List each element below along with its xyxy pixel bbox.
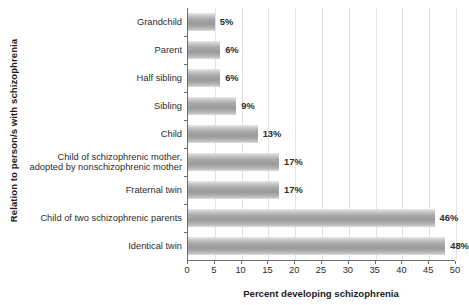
x-axis-tick bbox=[241, 261, 242, 264]
x-axis-tick-label: 20 bbox=[289, 265, 299, 275]
x-axis-tick bbox=[214, 261, 215, 264]
bar bbox=[188, 125, 258, 143]
x-axis-tick bbox=[267, 261, 268, 264]
y-axis-tick bbox=[184, 148, 188, 149]
category-label: Half sibling bbox=[26, 64, 182, 92]
category-label-line: Child of schizophrenic mother, bbox=[57, 152, 182, 162]
x-axis-tick-label: 40 bbox=[396, 265, 406, 275]
x-axis-tick bbox=[187, 261, 188, 264]
category-label: Child of two schizophrenic parents bbox=[26, 204, 182, 232]
y-axis-tick bbox=[184, 120, 188, 121]
bar-value-label: 6% bbox=[225, 69, 238, 87]
bar bbox=[188, 97, 236, 115]
x-axis-tick bbox=[428, 261, 429, 264]
category-label-line: Grandchild bbox=[137, 17, 182, 27]
y-axis-tick bbox=[184, 176, 188, 177]
category-label-line: Fraternal twin bbox=[126, 185, 182, 195]
bar bbox=[188, 69, 220, 87]
x-axis-tick bbox=[375, 261, 376, 264]
bar-value-label: 13% bbox=[263, 125, 282, 143]
y-axis-tick bbox=[184, 92, 188, 93]
category-label: Sibling bbox=[26, 92, 182, 120]
y-axis-tick bbox=[184, 36, 188, 37]
x-axis-tick-label: 25 bbox=[316, 265, 326, 275]
y-axis-title-text: Relation to person/s with schizophrenia bbox=[9, 38, 20, 221]
category-label-line: Child bbox=[161, 129, 182, 139]
x-axis-tick-label: 35 bbox=[369, 265, 379, 275]
x-axis-tick-label: 5 bbox=[211, 265, 216, 275]
bar bbox=[188, 209, 435, 227]
bar-value-label: 46% bbox=[440, 209, 459, 227]
bar bbox=[188, 153, 279, 171]
category-label-line: Parent bbox=[155, 45, 182, 55]
y-axis-title: Relation to person/s with schizophrenia bbox=[4, 0, 24, 260]
x-axis-tick-label: 10 bbox=[235, 265, 245, 275]
category-label: Grandchild bbox=[26, 8, 182, 36]
x-axis-tick bbox=[401, 261, 402, 264]
category-label: Parent bbox=[26, 36, 182, 64]
bar-value-label: 17% bbox=[284, 153, 303, 171]
x-axis-tick bbox=[321, 261, 322, 264]
x-axis-tick-label: 0 bbox=[184, 265, 189, 275]
category-label-line: Child of two schizophrenic parents bbox=[40, 213, 182, 223]
x-axis-tick-label: 15 bbox=[262, 265, 272, 275]
x-axis-tick-label: 45 bbox=[423, 265, 433, 275]
category-label-line: Identical twin bbox=[128, 241, 182, 251]
category-label-line: Sibling bbox=[154, 101, 182, 111]
x-axis-tick bbox=[348, 261, 349, 264]
x-axis-tick bbox=[455, 261, 456, 264]
x-axis-ticks: 05101520253035404550 bbox=[187, 261, 455, 275]
category-label: Identical twin bbox=[26, 232, 182, 260]
bar-value-label: 5% bbox=[220, 13, 233, 31]
bar bbox=[188, 181, 279, 199]
category-label-line: adopted by nonschizophrenic mother bbox=[30, 162, 182, 172]
category-label: Child of schizophrenic mother,adopted by… bbox=[26, 148, 182, 176]
category-label-column: GrandchildParentHalf siblingSiblingChild… bbox=[26, 8, 182, 260]
y-axis-tick bbox=[184, 204, 188, 205]
category-label: Child bbox=[26, 120, 182, 148]
bar-value-label: 9% bbox=[241, 97, 254, 115]
y-axis-tick bbox=[184, 232, 188, 233]
x-axis-tick bbox=[294, 261, 295, 264]
category-label-line: Half sibling bbox=[137, 73, 182, 83]
plot-area: 5%6%6%9%13%17%17%46%48% bbox=[187, 8, 456, 260]
bar-value-label: 6% bbox=[225, 41, 238, 59]
bar-value-label: 17% bbox=[284, 181, 303, 199]
x-axis-tick-label: 30 bbox=[343, 265, 353, 275]
bar bbox=[188, 237, 445, 255]
category-label: Fraternal twin bbox=[26, 176, 182, 204]
y-axis-tick bbox=[184, 64, 188, 65]
x-axis-title: Percent developing schizophrenia bbox=[187, 288, 455, 299]
bar bbox=[188, 41, 220, 59]
bar-value-label: 48% bbox=[450, 237, 469, 255]
bar bbox=[188, 13, 215, 31]
x-axis-tick-label: 50 bbox=[450, 265, 460, 275]
